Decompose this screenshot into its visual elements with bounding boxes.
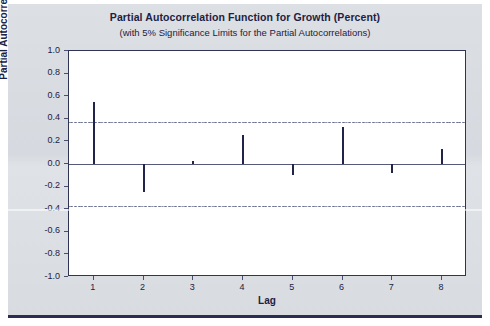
y-tick-label: 0.2 [20,136,60,145]
pacf-bar [93,102,95,164]
pacf-bar [242,135,244,164]
significance-limit-lower [69,206,465,207]
x-tick-mark [342,276,343,280]
y-tick-label: 0.4 [20,113,60,122]
plot-area [68,50,466,276]
x-tick-mark [93,276,94,280]
x-tick-mark [242,276,243,280]
pacf-bar [342,127,344,164]
y-tick-label: -0.8 [20,249,60,258]
pacf-bar [192,161,194,164]
x-tick-mark [391,276,392,280]
significance-limit-upper [69,122,465,123]
title-block: Partial Autocorrelation Function for Gro… [8,10,482,40]
x-tick-mark [292,276,293,280]
page-title: Partial Autocorrelation Function for Gro… [8,10,482,24]
y-tick-label: -0.6 [20,226,60,235]
y-tick-label: -0.4 [20,204,60,213]
x-tick-label: 8 [431,283,451,292]
y-tick-label: 1.0 [20,46,60,55]
x-axis-label: Lag [68,295,466,306]
pacf-bar [292,164,294,175]
y-tick-label: 0.8 [20,68,60,77]
x-tick-label: 2 [133,283,153,292]
x-tick-mark [441,276,442,280]
y-tick-label: 0.6 [20,91,60,100]
y-tick-label: -1.0 [20,272,60,281]
y-tick-label: -0.2 [20,181,60,190]
y-tick-mark [64,276,68,277]
x-tick-label: 7 [381,283,401,292]
x-tick-label: 3 [182,283,202,292]
x-tick-label: 4 [232,283,252,292]
x-tick-mark [143,276,144,280]
pacf-bar [441,149,443,164]
chart-page: Partial Autocorrelation Function for Gro… [0,0,490,326]
plot-inner [69,51,465,275]
pacf-bar [143,164,145,192]
x-tick-label: 6 [332,283,352,292]
bottom-rule [8,315,482,318]
pacf-bar [391,164,393,173]
x-tick-mark [192,276,193,280]
x-tick-label: 1 [83,283,103,292]
x-tick-label: 5 [282,283,302,292]
zero-line [69,164,465,165]
chart-subtitle: (with 5% Significance Limits for the Par… [8,26,482,40]
y-axis-label: Partial Autocorrelation [0,0,9,96]
y-tick-label: 0.0 [20,159,60,168]
